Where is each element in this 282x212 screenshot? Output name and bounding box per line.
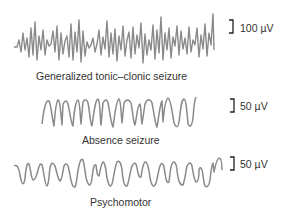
scale-label-absence: 50 µV: [240, 100, 268, 112]
label-tonic-clonic: Generalized tonic–clonic seizure: [36, 70, 187, 82]
label-absence: Absence seizure: [82, 134, 160, 146]
scale-label-tonic-clonic: 100 µV: [240, 22, 274, 34]
label-psychomotor: Psychomotor: [90, 196, 151, 208]
scale-bar-50uv-absence: [230, 99, 234, 112]
psychomotor-trace: [14, 158, 222, 187]
tonic-clonic-trace: [14, 14, 214, 63]
scale-bar-100uv: [229, 20, 233, 33]
absence-trace: [42, 97, 196, 127]
scale-label-psychomotor: 50 µV: [240, 158, 268, 170]
scale-bar-50uv-psychomotor: [230, 157, 234, 170]
